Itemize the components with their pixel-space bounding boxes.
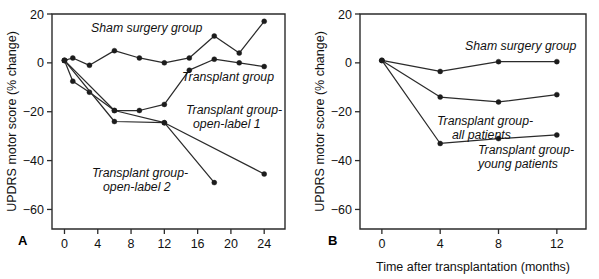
data-point-A-3-2 (162, 120, 167, 125)
x-tick-label-A-1: 4 (94, 237, 101, 251)
data-point-B-1-3 (554, 92, 559, 97)
data-point-A-0-3 (112, 48, 117, 53)
y-tick-label-A-4: −60 (23, 203, 44, 217)
x-tick-label-A-0: 0 (61, 237, 68, 251)
data-point-A-0-5 (162, 60, 167, 65)
y-tick-label-A-3: −40 (23, 154, 44, 168)
data-point-A-0-4 (137, 55, 142, 60)
data-point-B-0-2 (496, 59, 501, 64)
data-point-A-0-9 (262, 19, 267, 24)
annotation-A-transplant-group-open-label-1-line1: Transplant group- (186, 103, 282, 117)
data-point-B-2-0 (379, 58, 384, 63)
y-axis-label-B: UPDRS motor score (% change) (313, 31, 327, 212)
data-point-A-3-3 (212, 180, 217, 185)
data-point-A-1-7 (212, 57, 217, 62)
x-tick-label-A-5: 20 (224, 237, 238, 251)
data-point-B-2-1 (438, 141, 443, 146)
y-tick-label-A-2: −20 (23, 105, 44, 119)
updrs-motor-score-figure: 200−20−40−6004812162024UPDRS motor score… (0, 0, 599, 279)
annotation-A-transplant-group: Transplant group (182, 70, 274, 84)
data-point-A-2-1 (112, 108, 117, 113)
data-point-B-0-1 (438, 69, 443, 74)
data-point-B-0-3 (554, 59, 559, 64)
data-point-A-1-4 (137, 108, 142, 113)
panel-label-A: A (18, 233, 28, 248)
x-tick-label-B-2: 8 (495, 237, 502, 251)
annotation-B-transplant-group-young-patients-line2: young patients (477, 157, 558, 171)
y-tick-label-A-1: 0 (37, 56, 44, 70)
data-point-A-0-6 (187, 55, 192, 60)
annotation-A-transplant-group-open-label-2-line1: Transplant group- (92, 166, 188, 180)
x-tick-label-A-2: 8 (128, 237, 135, 251)
data-point-B-1-1 (438, 95, 443, 100)
annotation-B-sham-surgery-group: Sham surgery group (465, 39, 577, 53)
data-point-B-2-3 (554, 132, 559, 137)
data-point-A-0-1 (70, 55, 75, 60)
data-point-A-3-0 (62, 58, 67, 63)
figure-container: 200−20−40−6004812162024UPDRS motor score… (0, 0, 599, 279)
x-tick-label-B-3: 12 (550, 237, 564, 251)
y-tick-label-B-2: −20 (331, 105, 352, 119)
annotation-B-transplant-group-all-patients-line2: all patients (452, 128, 511, 142)
data-point-A-0-8 (237, 51, 242, 56)
data-point-A-1-9 (262, 64, 267, 69)
x-tick-label-B-0: 0 (378, 237, 385, 251)
data-point-A-3-1 (112, 119, 117, 124)
series-line-B-0 (382, 60, 557, 71)
annotation-A-transplant-group-open-label-1-line2: open-label 1 (193, 117, 261, 131)
x-tick-label-A-3: 12 (157, 237, 171, 251)
panel-label-B: B (328, 233, 337, 248)
data-point-A-1-1 (70, 79, 75, 84)
y-tick-label-B-1: 0 (345, 56, 352, 70)
annotation-A-transplant-group-open-label-2-line2: open-label 2 (103, 180, 171, 194)
y-tick-label-B-3: −40 (331, 154, 352, 168)
y-tick-label-A-0: 20 (30, 8, 44, 22)
data-point-A-0-7 (212, 33, 217, 38)
x-axis-label-B: Time after transplantation (months) (376, 260, 570, 274)
data-point-A-1-8 (237, 60, 242, 65)
y-axis-label-A: UPDRS motor score (% change) (5, 31, 19, 212)
annotation-A-sham-surgery-group: Sham surgery group (91, 21, 203, 35)
data-point-A-1-5 (162, 102, 167, 107)
data-point-B-1-2 (496, 99, 501, 104)
x-tick-label-B-1: 4 (437, 237, 444, 251)
x-tick-label-A-4: 16 (191, 237, 205, 251)
data-point-A-0-2 (87, 63, 92, 68)
panel-A: 200−20−40−6004812162024UPDRS motor score… (5, 8, 285, 252)
y-tick-label-B-0: 20 (338, 8, 352, 22)
panel-B: 200−20−40−6004812UPDRS motor score (% ch… (313, 8, 586, 275)
x-tick-label-A-6: 24 (257, 237, 271, 251)
annotation-B-transplant-group-all-patients-line1: Transplant group- (437, 114, 533, 128)
annotation-B-transplant-group-young-patients-line1: Transplant group- (478, 143, 574, 157)
data-point-A-2-3 (262, 172, 267, 177)
y-tick-label-B-4: −60 (331, 203, 352, 217)
